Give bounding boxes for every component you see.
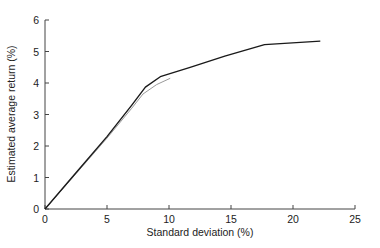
series-lines bbox=[45, 41, 320, 209]
x-ticks: 0510152025 bbox=[42, 205, 361, 225]
y-tick-label: 4 bbox=[33, 77, 39, 89]
x-axis-title: Standard deviation (%) bbox=[147, 226, 254, 238]
series-line bbox=[45, 78, 170, 209]
y-tick-label: 6 bbox=[33, 14, 39, 26]
y-tick-label: 3 bbox=[33, 109, 39, 121]
plot-area: 0123456 0510152025 bbox=[33, 14, 361, 225]
x-tick-label: 25 bbox=[349, 213, 361, 225]
y-tick-label: 1 bbox=[33, 172, 39, 184]
x-tick-label: 5 bbox=[104, 213, 110, 225]
y-tick-label: 0 bbox=[33, 203, 39, 215]
x-tick-label: 0 bbox=[42, 213, 48, 225]
y-ticks: 0123456 bbox=[33, 14, 49, 215]
x-tick-label: 20 bbox=[287, 213, 299, 225]
y-tick-label: 5 bbox=[33, 46, 39, 58]
y-axis-title: Estimated average return (%) bbox=[5, 45, 17, 182]
y-tick-label: 2 bbox=[33, 140, 39, 152]
series-line bbox=[45, 41, 320, 209]
x-tick-label: 10 bbox=[163, 213, 175, 225]
chart: 0123456 0510152025 Standard deviation (%… bbox=[0, 0, 380, 248]
x-tick-label: 15 bbox=[225, 213, 237, 225]
